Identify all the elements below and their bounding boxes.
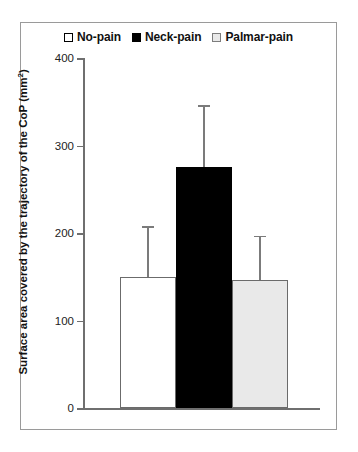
y-tick-label: 200: [55, 227, 74, 239]
y-axis-line: [83, 58, 85, 408]
error-bar-stem: [259, 236, 261, 281]
legend-item-no-pain: No-pain: [64, 30, 121, 44]
y-tick-mark: [77, 146, 83, 148]
y-tick-mark: [77, 408, 83, 410]
y-tick-label: 300: [55, 140, 74, 152]
error-bar-cap: [198, 105, 210, 107]
y-tick-mark: [77, 58, 83, 60]
filled-square-icon: [132, 33, 141, 42]
y-tick-mark: [77, 233, 83, 235]
y-axis-title-exponent: 2: [16, 73, 25, 77]
y-axis-title: Surface area covered by the trajectory o…: [16, 49, 30, 394]
bar-palmar-pain: [232, 280, 288, 408]
y-axis-title-tail: ): [17, 69, 29, 73]
y-axis-title-main: Surface area covered by the trajectory o…: [17, 78, 29, 375]
error-bar-cap: [142, 226, 154, 228]
legend-item-palmar-pain: Palmar-pain: [212, 30, 293, 44]
figure-canvas: No-pain Neck-pain Palmar-pain Surface ar…: [0, 0, 358, 452]
error-bar-stem: [147, 226, 149, 277]
error-bar-stem: [203, 105, 205, 166]
y-tick-mark: [77, 321, 83, 323]
x-axis-line: [83, 408, 320, 410]
legend-label-no-pain: No-pain: [77, 30, 121, 44]
chart-legend: No-pain Neck-pain Palmar-pain: [20, 26, 337, 48]
y-tick-label: 0: [68, 402, 74, 414]
bar-neck-pain: [176, 167, 232, 409]
legend-item-neck-pain: Neck-pain: [132, 30, 201, 44]
legend-label-palmar-pain: Palmar-pain: [225, 30, 293, 44]
error-bar-cap: [254, 236, 266, 238]
y-tick-label: 100: [55, 315, 74, 327]
open-square-icon: [64, 33, 73, 42]
plot-area: 0100200300400: [83, 58, 320, 408]
bar-no-pain: [120, 277, 176, 408]
y-tick-label: 400: [55, 52, 74, 64]
light-gray-square-icon: [212, 33, 221, 42]
legend-label-neck-pain: Neck-pain: [145, 30, 201, 44]
